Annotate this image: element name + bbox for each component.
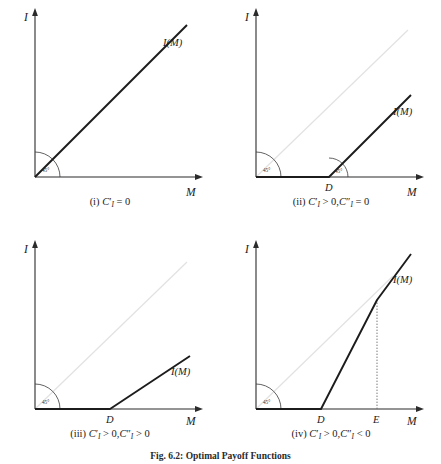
angle-label-iv: 45° [263,399,270,405]
angle-label-ii-right: 45° [335,168,342,174]
tick-label-d-iv: D [316,414,325,425]
x-axis-label-iv: M [406,415,418,427]
angle-label-ii-left: 45° [263,167,270,173]
y-axis-label-iii: I [23,243,29,255]
figure-container: I M I(M) 45° (i) C′I = 0 [0,0,441,464]
x-axis-label-iii: M [185,415,197,427]
caption-iii: (iii) C′I > 0,C″I > 0 [0,428,220,441]
y-axis-label-iv: I [244,243,250,255]
y-axis-label-i: I [23,11,29,23]
tick-label-d-iii: D [105,414,114,425]
caption-i-index: (i) [90,196,100,207]
curve-label-ii: I(M) [392,106,413,118]
curve-label-iv: I(M) [392,274,413,286]
caption-iv: (iv) C′I > 0,C″I < 0 [221,428,441,441]
caption-ii-index: (ii) [293,196,306,207]
angle-label-i: 45° [42,167,49,173]
curve-label-iii: I(M) [170,366,191,378]
caption-i: (i) C′I = 0 [0,196,220,209]
figure-caption: Fig. 6.2: Optimal Payoff Functions [0,451,441,464]
tick-label-e-iv: E [372,414,380,425]
y-axis-label-ii: I [244,11,250,23]
angle-label-iii: 45° [42,399,49,405]
caption-iii-index: (iii) [70,428,86,439]
curve-label-i: I(M) [162,37,183,49]
tick-label-d-ii: D [324,182,333,193]
caption-ii: (ii) C′I > 0,C″I = 0 [221,196,441,209]
caption-iv-index: (iv) [292,428,307,439]
